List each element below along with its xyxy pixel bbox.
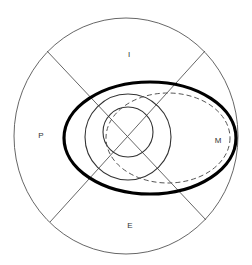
dashed-ellipse: [106, 93, 230, 183]
divider-line-ne-sw: [50, 51, 205, 222]
label-top-quadrant: I: [128, 50, 130, 59]
label-left-quadrant: P: [38, 131, 43, 140]
label-bottom-quadrant: E: [127, 221, 132, 230]
quadrant-diagram: I P M E: [0, 0, 252, 265]
thick-ellipse: [64, 82, 236, 194]
label-right-quadrant: M: [215, 136, 222, 145]
inner-circle: [103, 107, 153, 157]
